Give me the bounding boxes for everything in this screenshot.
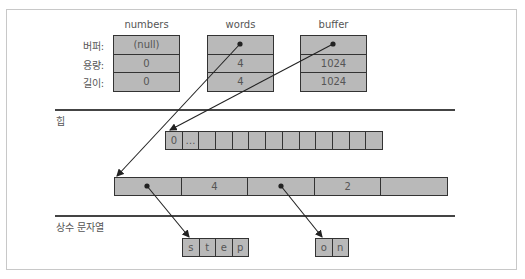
byte-array-cell: … xyxy=(183,132,200,149)
row-label-length: 길이: xyxy=(64,75,104,90)
row-label-buffer: 버퍼: xyxy=(64,38,104,53)
on-char-cell: n xyxy=(333,239,349,256)
words-buffer xyxy=(208,36,273,55)
struct-buffer: 1024 1024 xyxy=(300,35,367,92)
step-char-cell: t xyxy=(200,239,217,256)
byte-array-cell xyxy=(283,132,300,149)
words-length: 4 xyxy=(208,73,273,92)
buffer-buffer xyxy=(301,36,366,55)
byte-array-cell xyxy=(350,132,367,149)
byte-array-cell xyxy=(333,132,350,149)
byte-array-cell xyxy=(266,132,283,149)
slice-array-cell xyxy=(248,178,315,195)
numbers-length: 0 xyxy=(114,73,179,92)
step-char-cell: p xyxy=(233,239,249,256)
struct-title-numbers: numbers xyxy=(113,19,180,30)
on-char-cell: o xyxy=(316,239,333,256)
heap-label: 힙 xyxy=(56,113,65,128)
numbers-buffer: (null) xyxy=(114,36,179,55)
slice-array-cell xyxy=(115,178,182,195)
slice-array-cell: 2 xyxy=(315,178,382,195)
constant-strings-label: 상수 문자열 xyxy=(56,219,104,234)
byte-array-cell xyxy=(199,132,216,149)
heap-byte-array: 0… xyxy=(165,131,383,150)
byte-array-cell xyxy=(216,132,233,149)
heap-divider xyxy=(55,109,455,111)
numbers-capacity: 0 xyxy=(114,55,179,74)
byte-array-cell xyxy=(366,132,382,149)
row-label-capacity: 용량: xyxy=(64,57,104,72)
buffer-capacity: 1024 xyxy=(301,55,366,74)
struct-numbers: (null) 0 0 xyxy=(113,35,180,92)
step-char-cell: s xyxy=(183,239,200,256)
byte-array-cell xyxy=(300,132,317,149)
byte-array-cell xyxy=(249,132,266,149)
words-capacity: 4 xyxy=(208,55,273,74)
const-string-step: step xyxy=(182,238,249,257)
const-string-on: on xyxy=(315,238,349,257)
byte-array-cell xyxy=(316,132,333,149)
byte-array-cell: 0 xyxy=(166,132,183,149)
struct-title-words: words xyxy=(207,19,274,30)
slice-array-cell: 4 xyxy=(182,178,249,195)
buffer-length: 1024 xyxy=(301,73,366,92)
byte-array-cell xyxy=(233,132,250,149)
constant-strings-divider xyxy=(55,215,455,217)
struct-words: 4 4 xyxy=(207,35,274,92)
step-char-cell: e xyxy=(216,239,233,256)
heap-slice-array: 42 xyxy=(114,177,448,196)
slice-array-cell xyxy=(381,178,447,195)
struct-title-buffer: buffer xyxy=(300,19,367,30)
